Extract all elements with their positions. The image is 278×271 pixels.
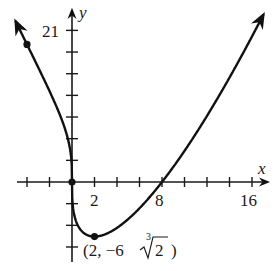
min-point-label-prefix: (2, −6 (83, 241, 124, 260)
marked-point (23, 41, 30, 48)
y-tick-label-21: 21 (42, 22, 59, 41)
plot-area: y x 21 2 8 16 (2, −6 3 2 ) (0, 0, 278, 271)
function-curve (16, 15, 264, 237)
min-point-label-suffix: ) (171, 241, 177, 260)
x-tick-label-8: 8 (155, 191, 164, 210)
y-axis-label: y (77, 3, 87, 22)
x-tick-label-2: 2 (90, 191, 99, 210)
root-radicand: 2 (155, 241, 164, 260)
function-graph: y x 21 2 8 16 (2, −6 3 2 ) (0, 0, 278, 271)
x-tick-label-16: 16 (240, 191, 257, 210)
marked-point (91, 233, 98, 240)
marked-points (23, 41, 98, 240)
root-index: 3 (146, 231, 151, 242)
radical-sign (140, 237, 168, 258)
x-axis-label: x (257, 159, 266, 178)
marked-point (68, 178, 75, 185)
